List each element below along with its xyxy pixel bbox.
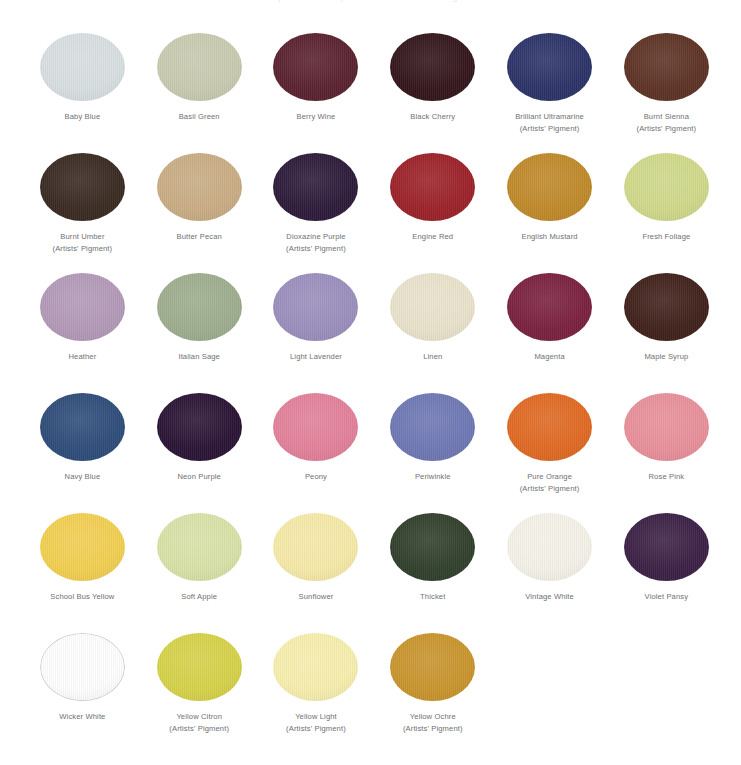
color-swatch-cell[interactable]: Peony [258,393,375,513]
color-swatch-label: Engine Red [375,231,491,243]
color-swatch-cell[interactable]: Italian Sage [141,273,258,393]
color-swatch-oval[interactable] [624,513,709,581]
color-swatch-name: Engine Red [412,232,453,241]
color-swatch-oval[interactable] [40,513,125,581]
color-swatch-oval[interactable] [624,273,709,341]
color-swatch-cell[interactable]: Dioxazine Purple(Artists' Pigment) [258,153,375,273]
color-swatch-cell[interactable]: Violet Pansy [608,513,725,633]
color-swatch-cell[interactable]: Butter Pecan [141,153,258,273]
color-swatch-cell[interactable]: Yellow Ochre(Artists' Pigment) [374,633,491,753]
color-swatch-label: Soft Apple [141,591,257,603]
color-swatch-cell[interactable]: Burnt Sienna(Artists' Pigment) [608,33,725,153]
color-swatch-oval[interactable] [157,633,242,701]
color-swatch-label: Vintage White [492,591,608,603]
color-swatch-oval[interactable] [157,513,242,581]
color-swatch-cell[interactable]: Navy Blue [24,393,141,513]
color-swatch-cell[interactable]: Engine Red [374,153,491,273]
color-swatch-cell[interactable]: Rose Pink [608,393,725,513]
color-swatch-oval[interactable] [507,273,592,341]
color-swatch-oval[interactable] [273,33,358,101]
color-swatch-oval[interactable] [40,633,125,701]
color-swatch-cell[interactable]: Burnt Umber(Artists' Pigment) [24,153,141,273]
color-swatch-oval[interactable] [390,633,475,701]
color-swatch-oval[interactable] [157,393,242,461]
color-swatch-cell[interactable]: Neon Purple [141,393,258,513]
color-swatch-cell[interactable]: School Bus Yellow [24,513,141,633]
color-swatch-pigment-note: (Artists' Pigment) [258,723,374,735]
color-swatch-oval[interactable] [507,393,592,461]
color-swatch-name: Rose Pink [649,472,685,481]
color-swatch-name: Wicker White [59,712,105,721]
color-swatch-cell[interactable]: Berry Wine [258,33,375,153]
color-swatch-cell[interactable]: Black Cherry [374,33,491,153]
color-swatch-pigment-note: (Artists' Pigment) [141,723,257,735]
color-swatch-oval[interactable] [273,153,358,221]
color-swatch-oval[interactable] [390,513,475,581]
color-swatch-label: Light Lavender [258,351,374,363]
color-swatch-oval[interactable] [157,33,242,101]
color-swatch-cell[interactable]: Magenta [491,273,608,393]
color-swatch-label: Wicker White [24,711,140,723]
color-swatch-oval[interactable] [273,273,358,341]
color-swatch-name: Yellow Light [295,712,337,721]
color-swatch-oval[interactable] [40,153,125,221]
color-swatch-cell[interactable]: Heather [24,273,141,393]
chart-title-clipped: Complete FolkArt Acrylic Color Chart wit… [0,0,741,3]
color-chart-sheet: Complete FolkArt Acrylic Color Chart wit… [0,0,741,765]
color-swatch-oval[interactable] [40,273,125,341]
color-swatch-cell[interactable]: Brilliant Ultramarine(Artists' Pigment) [491,33,608,153]
color-swatch-name: Magenta [534,352,564,361]
color-swatch-label: Thicket [375,591,491,603]
color-swatch-cell[interactable]: Basil Green [141,33,258,153]
color-swatch-label: Peony [258,471,374,483]
color-swatch-pigment-note: (Artists' Pigment) [375,723,491,735]
color-swatch-cell[interactable]: Baby Blue [24,33,141,153]
color-swatch-oval[interactable] [390,273,475,341]
color-swatch-cell[interactable]: Yellow Light(Artists' Pigment) [258,633,375,753]
color-swatch-name: Pure Orange [527,472,572,481]
color-swatch-name: Baby Blue [65,112,101,121]
color-swatch-oval[interactable] [624,153,709,221]
color-swatch-name: Violet Pansy [645,592,689,601]
color-swatch-oval[interactable] [624,393,709,461]
color-swatch-oval[interactable] [507,513,592,581]
color-swatch-label: Violet Pansy [608,591,724,603]
color-swatch-name: English Mustard [521,232,577,241]
color-swatch-cell[interactable]: Maple Syrup [608,273,725,393]
color-swatch-label: Yellow Citron(Artists' Pigment) [141,711,257,734]
color-swatch-label: Pure Orange(Artists' Pigment) [492,471,608,494]
color-swatch-oval[interactable] [273,633,358,701]
color-swatch-label: Sunflower [258,591,374,603]
color-swatch-oval[interactable] [390,153,475,221]
color-swatch-oval[interactable] [273,393,358,461]
color-swatch-name: Neon Purple [177,472,221,481]
color-swatch-oval[interactable] [40,393,125,461]
color-swatch-label: Navy Blue [24,471,140,483]
color-swatch-oval[interactable] [507,33,592,101]
color-swatch-oval[interactable] [390,33,475,101]
color-swatch-label: Butter Pecan [141,231,257,243]
color-swatch-cell[interactable]: Sunflower [258,513,375,633]
color-swatch-cell[interactable]: Soft Apple [141,513,258,633]
color-swatch-cell[interactable]: Thicket [374,513,491,633]
color-swatch-cell[interactable]: Wicker White [24,633,141,753]
color-swatch-grid: Baby BlueBasil GreenBerry WineBlack Cher… [24,33,724,753]
color-swatch-label: Rose Pink [608,471,724,483]
color-swatch-oval[interactable] [273,513,358,581]
color-swatch-oval[interactable] [157,273,242,341]
color-swatch-cell[interactable]: Linen [374,273,491,393]
color-swatch-cell[interactable]: Light Lavender [258,273,375,393]
color-swatch-cell[interactable]: English Mustard [491,153,608,273]
color-swatch-oval[interactable] [40,33,125,101]
color-swatch-cell[interactable]: Periwinkle [374,393,491,513]
color-swatch-oval[interactable] [157,153,242,221]
color-swatch-oval[interactable] [390,393,475,461]
color-swatch-label: Baby Blue [24,111,140,123]
color-swatch-cell[interactable]: Yellow Citron(Artists' Pigment) [141,633,258,753]
color-swatch-cell[interactable]: Pure Orange(Artists' Pigment) [491,393,608,513]
color-swatch-cell[interactable]: Fresh Foliage [608,153,725,273]
color-swatch-cell[interactable]: Vintage White [491,513,608,633]
color-swatch-pigment-note: (Artists' Pigment) [492,483,608,495]
color-swatch-oval[interactable] [624,33,709,101]
color-swatch-oval[interactable] [507,153,592,221]
